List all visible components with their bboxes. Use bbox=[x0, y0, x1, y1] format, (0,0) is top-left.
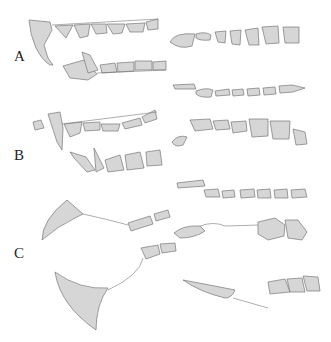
dental-illustration bbox=[0, 0, 331, 342]
panel-a-upper-occlusal bbox=[170, 26, 299, 47]
panel-a-upper-lateral bbox=[29, 19, 158, 65]
panel-c-lower-mandible bbox=[55, 243, 176, 330]
panel-a-lower-occlusal bbox=[173, 84, 305, 97]
panel-b-upper-occlusal bbox=[172, 119, 307, 146]
panel-c-upper-isolated bbox=[174, 218, 307, 240]
panel-c-upper-mandible bbox=[42, 200, 170, 240]
panel-b-lower-lateral bbox=[70, 148, 162, 172]
panel-b-upper-lateral bbox=[33, 110, 157, 150]
panel-a-lower-lateral bbox=[63, 52, 166, 80]
panel-c-lower-isolated bbox=[183, 276, 320, 308]
panel-b-lower-occlusal bbox=[177, 180, 307, 198]
